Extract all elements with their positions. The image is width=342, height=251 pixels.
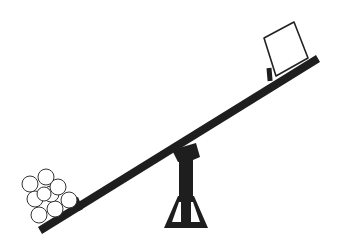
ball [37,187,51,201]
ball [38,169,54,185]
ball [47,201,63,217]
ball [31,207,47,223]
fulcrum [164,143,208,228]
right-stopper [266,68,272,81]
ball [22,176,38,192]
seesaw-diagram: Seesaw [0,0,342,251]
ball [61,192,77,208]
